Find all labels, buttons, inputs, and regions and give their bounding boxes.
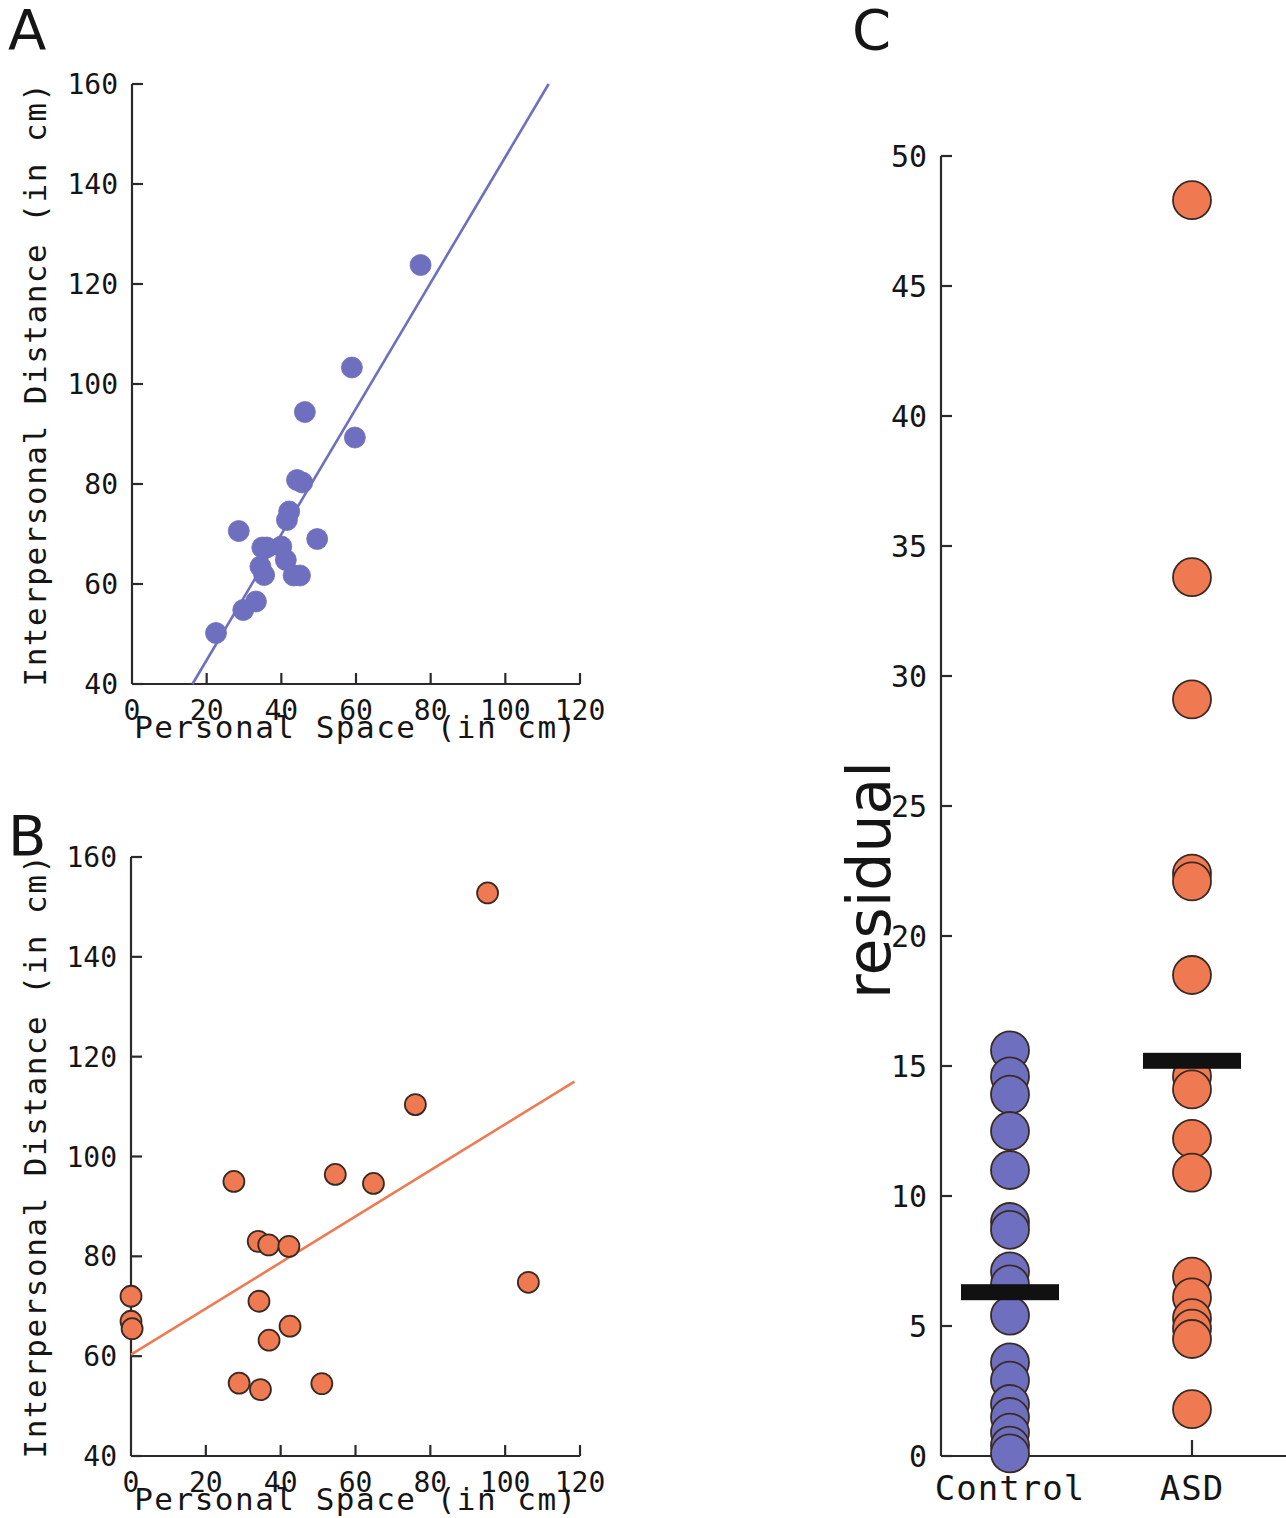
panel-a-x-ticks: [207, 673, 580, 684]
category-label-asd: ASD: [1160, 1468, 1224, 1508]
panel-c: 05101520253035404550 ControlASD residual: [834, 139, 1286, 1508]
panel-b-y-axis-label: Interpersonal Distance (in cm): [17, 854, 53, 1459]
y-tick-label: 5: [909, 1309, 927, 1344]
panel-a-x-axis-label: Personal Space (in cm): [134, 709, 578, 745]
category-label-control: Control: [935, 1468, 1085, 1508]
data-point: [1173, 680, 1211, 718]
data-point: [991, 1076, 1029, 1114]
data-point: [250, 1379, 271, 1400]
data-point: [223, 1171, 244, 1192]
y-tick-label: 60: [84, 568, 118, 601]
data-point: [259, 1330, 280, 1351]
y-tick-label: 160: [66, 841, 117, 874]
data-point: [991, 1112, 1029, 1150]
panel-a-data-points: [206, 255, 432, 644]
data-point: [122, 1318, 143, 1339]
y-tick-label: 50: [891, 139, 927, 174]
data-point: [228, 521, 249, 542]
data-point: [1173, 181, 1211, 219]
y-tick-label: 30: [891, 659, 927, 694]
panel-c-category-labels: ControlASD: [935, 1468, 1224, 1508]
panel-c-axes: [941, 156, 1286, 1456]
y-tick-label: 60: [83, 1340, 117, 1373]
data-point: [258, 1234, 279, 1255]
data-point: [292, 472, 313, 493]
y-tick-label: 160: [67, 68, 118, 101]
data-point: [1173, 1320, 1211, 1358]
data-point: [206, 623, 227, 644]
y-tick-label: 10: [891, 1179, 927, 1214]
data-point: [311, 1373, 332, 1394]
data-point: [121, 1286, 142, 1307]
data-point: [991, 1211, 1029, 1249]
data-point: [344, 427, 365, 448]
data-point: [477, 882, 498, 903]
mean-bar: [1143, 1053, 1241, 1069]
panel-a-y-ticks: [132, 84, 143, 684]
data-point: [405, 1094, 426, 1115]
data-point: [229, 1373, 250, 1394]
panel-b-x-axis-label: Personal Space (in cm): [134, 1481, 578, 1517]
panel-b-x-ticks: [206, 1445, 580, 1456]
panel-c-data-points: [991, 181, 1211, 1472]
data-point: [279, 501, 300, 522]
y-tick-label: 120: [66, 1041, 117, 1074]
panel-a-axes: [132, 84, 580, 684]
panel-c-y-axis-label: residual: [834, 761, 904, 999]
figure-canvas: 406080100120140160 020406080100120 Perso…: [0, 0, 1286, 1518]
data-point: [1173, 1070, 1211, 1108]
data-point: [363, 1173, 384, 1194]
data-point: [294, 402, 315, 423]
data-point: [991, 1297, 1029, 1335]
y-tick-label: 100: [66, 1141, 117, 1174]
y-tick-label: 35: [891, 529, 927, 564]
data-point: [1173, 1154, 1211, 1192]
panel-b-regression-line: [131, 1082, 574, 1355]
data-point: [410, 255, 431, 276]
panel-b: 406080100120140160 020406080100120 Perso…: [17, 841, 605, 1517]
y-tick-label: 140: [66, 941, 117, 974]
y-tick-label: 0: [909, 1439, 927, 1474]
data-point: [518, 1272, 539, 1293]
data-point: [991, 1434, 1029, 1472]
y-tick-label: 80: [83, 1240, 117, 1273]
y-tick-label: 120: [67, 268, 118, 301]
data-point: [245, 591, 266, 612]
data-point: [341, 357, 362, 378]
y-tick-label: 100: [67, 368, 118, 401]
data-point: [1173, 862, 1211, 900]
data-point: [307, 529, 328, 550]
mean-bar: [961, 1284, 1059, 1300]
panel-a: 406080100120140160 020406080100120 Perso…: [17, 68, 605, 745]
figure-root: A B C 406080100120140160 020406080100120…: [0, 0, 1286, 1518]
panel-a-regression-line: [192, 84, 548, 684]
y-tick-label: 40: [84, 668, 118, 701]
panel-a-y-tick-labels: 406080100120140160: [67, 68, 118, 701]
data-point: [278, 1236, 299, 1257]
panel-c-y-ticks: [941, 156, 952, 1456]
data-point: [1173, 1120, 1211, 1158]
y-tick-label: 40: [83, 1440, 117, 1473]
data-point: [991, 1151, 1029, 1189]
data-point: [1173, 956, 1211, 994]
data-point: [248, 1291, 269, 1312]
data-point: [290, 565, 311, 586]
y-tick-label: 140: [67, 168, 118, 201]
panel-b-y-ticks: [131, 857, 142, 1456]
panel-a-y-axis-label: Interpersonal Distance (in cm): [17, 82, 53, 687]
data-point: [1173, 1390, 1211, 1428]
y-tick-label: 45: [891, 269, 927, 304]
panel-b-axes: [131, 857, 580, 1456]
data-point: [1173, 558, 1211, 596]
y-tick-label: 15: [891, 1049, 927, 1084]
y-tick-label: 80: [84, 468, 118, 501]
data-point: [280, 1316, 301, 1337]
data-point: [325, 1164, 346, 1185]
panel-b-y-tick-labels: 406080100120140160: [66, 841, 117, 1473]
data-point: [254, 565, 275, 586]
y-tick-label: 40: [891, 399, 927, 434]
